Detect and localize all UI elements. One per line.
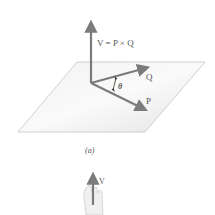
hand-v-label: V	[99, 177, 105, 186]
p-label: P	[146, 96, 151, 106]
caption-a: (a)	[85, 146, 95, 155]
plane	[18, 62, 205, 132]
cross-product-figure: V = P × Q Q P θ (a) V	[0, 0, 215, 215]
v-equals-p-cross-q-label: V = P × Q	[97, 38, 134, 48]
q-label: Q	[146, 72, 153, 82]
